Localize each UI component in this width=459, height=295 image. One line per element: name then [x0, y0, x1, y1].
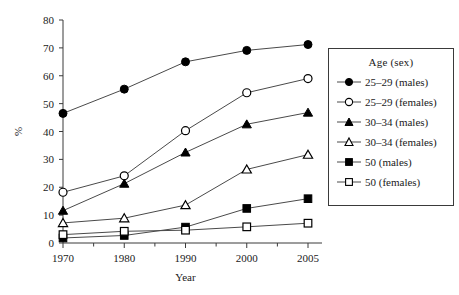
series-line: [63, 155, 308, 223]
data-point-marker: [243, 46, 251, 54]
data-point-marker: [181, 148, 190, 156]
chart-figure: 0102030405060708019701980199020002005Yea…: [0, 0, 459, 295]
filled-triangle-icon: [336, 115, 362, 129]
legend-item-label: 50 (males): [365, 157, 412, 168]
data-point-marker: [304, 41, 312, 49]
data-point-marker: [303, 108, 312, 116]
legend-item-25-29-females: 25–29 (females): [329, 92, 453, 112]
x-tick-label: 2005: [297, 252, 320, 264]
y-tick-label: 30: [43, 153, 55, 165]
filled-square-icon: [336, 155, 362, 169]
y-tick-label: 40: [43, 126, 55, 138]
y-tick-label: 20: [43, 181, 55, 193]
data-point-marker: [181, 201, 190, 209]
legend-item-25-29-males: 25–29 (males): [329, 72, 453, 92]
data-point-marker: [59, 188, 67, 196]
legend-item-50-males: 50 (males): [329, 152, 453, 172]
plot-area: 0102030405060708019701980199020002005Yea…: [0, 0, 330, 295]
data-point-marker: [304, 195, 312, 203]
data-point-marker: [58, 206, 67, 214]
x-tick-label: 1990: [175, 252, 198, 264]
series-2: [58, 108, 312, 214]
data-point-marker: [59, 109, 67, 117]
y-tick-label: 10: [43, 209, 55, 221]
y-tick-label: 50: [43, 98, 55, 110]
legend-item-50-females: 50 (females): [329, 172, 453, 192]
data-point-marker: [120, 227, 128, 235]
series-line: [63, 79, 308, 193]
data-point-marker: [243, 205, 251, 213]
series-line: [63, 45, 308, 114]
data-point-marker: [243, 223, 251, 231]
data-point-marker: [303, 150, 312, 158]
data-point-marker: [182, 58, 190, 66]
x-tick-label: 2000: [236, 252, 259, 264]
data-point-marker: [120, 85, 128, 93]
x-axis-title: Year: [175, 271, 196, 283]
series-0: [59, 41, 312, 118]
legend-item-label: 30–34 (females): [365, 137, 437, 148]
open-square-icon: [336, 175, 362, 189]
open-triangle-icon: [336, 135, 362, 149]
y-tick-label: 80: [43, 14, 55, 26]
series-5: [59, 219, 312, 238]
legend: Age (sex) 25–29 (males) 25–29 (females) …: [328, 48, 454, 206]
data-point-marker: [304, 75, 312, 83]
legend-item-label: 50 (females): [365, 177, 420, 188]
legend-item-label: 30–34 (males): [365, 117, 428, 128]
series-1: [59, 75, 312, 197]
series-3: [58, 150, 312, 226]
open-circle-icon: [336, 95, 362, 109]
data-point-marker: [182, 127, 190, 135]
legend-item-label: 25–29 (females): [365, 97, 437, 108]
x-tick-label: 1980: [113, 252, 136, 264]
y-tick-label: 70: [43, 42, 55, 54]
legend-item-30-34-females: 30–34 (females): [329, 132, 453, 152]
data-point-marker: [243, 89, 251, 97]
legend-title: Age (sex): [329, 56, 453, 68]
y-tick-label: 0: [49, 237, 55, 249]
data-point-marker: [304, 219, 312, 227]
legend-item-label: 25–29 (males): [365, 77, 428, 88]
data-point-marker: [120, 179, 129, 187]
y-tick-label: 60: [43, 70, 55, 82]
data-point-marker: [59, 231, 67, 239]
series-layer: [58, 41, 312, 242]
axes-layer: [59, 20, 322, 248]
y-axis-title: %: [12, 127, 24, 136]
data-point-marker: [182, 226, 190, 234]
legend-item-30-34-males: 30–34 (males): [329, 112, 453, 132]
x-tick-label: 1970: [52, 252, 75, 264]
filled-circle-icon: [336, 75, 362, 89]
